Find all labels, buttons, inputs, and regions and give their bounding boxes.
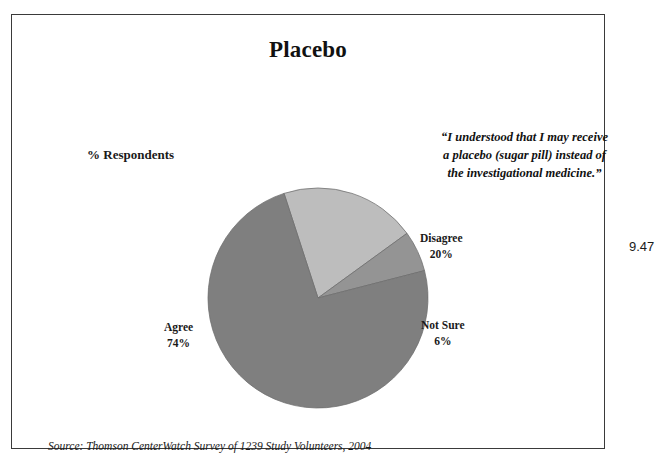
pie-label-not-sure-value: 6% — [421, 334, 465, 350]
pie-label-agree: Agree 74% — [164, 320, 193, 351]
pie-label-disagree: Disagree 20% — [420, 231, 463, 262]
source-note: Source: Thomson CenterWatch Survey of 12… — [48, 440, 371, 452]
pie-label-disagree-name: Disagree — [420, 231, 463, 247]
page-title: Placebo — [12, 37, 604, 63]
pie-chart — [197, 177, 439, 419]
pie-label-agree-name: Agree — [164, 320, 193, 336]
figure-number: 9.47 — [629, 239, 654, 254]
pie-slice-group — [208, 188, 428, 408]
pie-label-not-sure-name: Not Sure — [421, 318, 465, 334]
pie-label-not-sure: Not Sure 6% — [421, 318, 465, 349]
pie-chart-svg — [197, 177, 439, 419]
pull-quote: “I understood that I may receive a place… — [437, 129, 612, 182]
axis-label-respondents: % Respondents — [87, 147, 174, 163]
pie-label-agree-value: 74% — [164, 336, 193, 352]
pie-label-disagree-value: 20% — [420, 247, 463, 263]
figure-frame: Placebo % Respondents “I understood that… — [11, 14, 605, 449]
